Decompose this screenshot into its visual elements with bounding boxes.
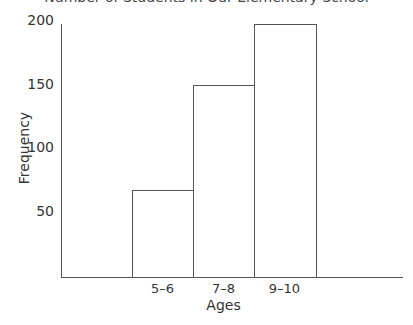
x-tick-7-8: 7–8 — [193, 281, 254, 296]
y-tick-200: 200 — [14, 12, 54, 28]
y-axis-line — [61, 24, 62, 278]
y-tick-150: 150 — [14, 76, 54, 92]
bar-7-8 — [193, 85, 255, 277]
x-axis-line — [61, 277, 403, 278]
x-tick-5-6: 5–6 — [132, 281, 193, 296]
y-tick-50: 50 — [14, 203, 54, 219]
x-axis-label: Ages — [193, 297, 254, 313]
y-axis-label: Frequency — [16, 112, 32, 184]
chart-title: Number of Students in Our Elementary Sch… — [0, 0, 413, 5]
x-tick-9-10: 9–10 — [254, 281, 315, 296]
bar-5-6 — [132, 190, 194, 277]
bar-9-10 — [254, 24, 317, 277]
